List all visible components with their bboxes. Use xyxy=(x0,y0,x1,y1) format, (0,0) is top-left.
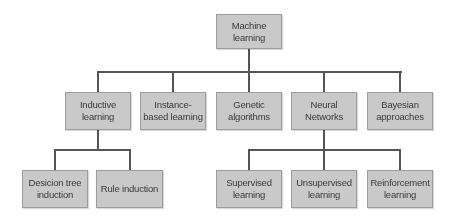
connector-to-reinforcement xyxy=(399,149,401,170)
connector-to-rule-induction xyxy=(129,149,131,170)
node-label: Rule induction xyxy=(101,183,158,195)
node-label: Machine learning xyxy=(219,20,279,44)
node-instance-based-learning: Instance-based learning xyxy=(140,92,206,130)
node-genetic-algorithms: Genetic algorithms xyxy=(216,92,282,130)
node-supervised-learning: Supervised learning xyxy=(216,170,282,208)
connector-root-down xyxy=(248,48,250,73)
connector-to-supervised xyxy=(248,149,250,170)
connector-to-neural xyxy=(323,71,325,92)
node-bayesian-approaches: Bayesian approaches xyxy=(367,92,433,130)
node-inductive-learning: Inductive learning xyxy=(65,92,131,130)
connector-to-unsupervised xyxy=(323,149,325,170)
node-label: Bayesian approaches xyxy=(370,99,430,123)
connector-inductive-bar xyxy=(54,149,131,151)
node-label: Genetic algorithms xyxy=(219,99,279,123)
node-rule-induction: Rule induction xyxy=(96,170,163,208)
node-label: Instance-based learning xyxy=(143,99,203,123)
node-unsupervised-learning: Unsupervised learning xyxy=(291,170,357,208)
node-label: Neural Networks xyxy=(294,99,354,123)
connector-to-bayesian xyxy=(399,71,401,92)
node-label: Desicion tree induction xyxy=(25,177,85,201)
connector-neural-down xyxy=(323,130,325,151)
node-reinforcement-learning: Reinforcement learning xyxy=(367,170,433,208)
node-label: Reinforcement learning xyxy=(370,177,430,201)
connector-inductive-down xyxy=(97,130,99,151)
ml-taxonomy-diagram: Machine learning Inductive learning Inst… xyxy=(0,0,451,223)
node-label: Supervised learning xyxy=(219,177,279,201)
connector-to-decision-tree xyxy=(54,149,56,170)
node-machine-learning: Machine learning xyxy=(216,14,282,49)
connector-to-instance xyxy=(172,71,174,92)
node-label: Inductive learning xyxy=(68,99,128,123)
connector-to-genetic xyxy=(248,71,250,92)
node-decision-tree-induction: Desicion tree induction xyxy=(22,170,88,208)
node-neural-networks: Neural Networks xyxy=(291,92,357,130)
node-label: Unsupervised learning xyxy=(294,177,354,201)
connector-to-inductive xyxy=(97,71,99,92)
